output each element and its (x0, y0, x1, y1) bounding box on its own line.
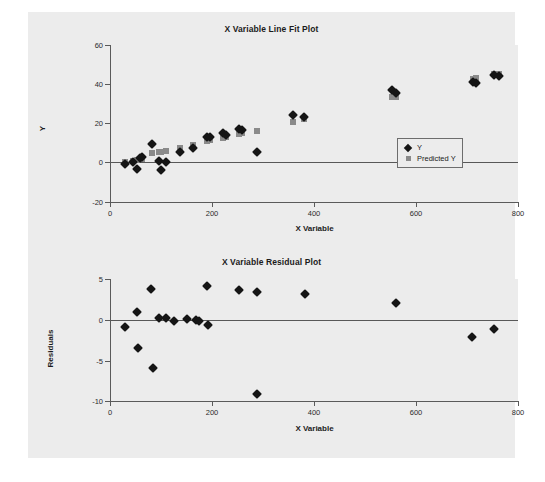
residual-point (182, 314, 192, 324)
residual-x-tick-label: 400 (299, 408, 329, 417)
residual-point (132, 307, 142, 317)
line-fit-plot: X Variable Line Fit Plot Y (28, 12, 515, 244)
residual-point (120, 322, 130, 332)
residual-x-tick-label: 0 (95, 408, 125, 417)
observed-point (156, 165, 166, 175)
residual-x-tick (212, 401, 213, 406)
line-fit-x-tick-label: 600 (401, 209, 431, 218)
line-fit-x-tick-label: 200 (197, 209, 227, 218)
observed-point (252, 147, 262, 157)
line-fit-y-tick-label: -20 (78, 198, 103, 207)
line-fit-y-axis (110, 45, 111, 203)
residual-plot: X Variable Residual Plot Residuals (28, 244, 515, 458)
residual-point (467, 332, 477, 342)
line-fit-y-tick-label: 60 (78, 41, 103, 50)
residual-x-tick-label: 800 (503, 408, 533, 417)
legend-item-y[interactable]: Y (402, 142, 456, 153)
predicted-point (163, 148, 169, 154)
residual-point (234, 285, 244, 295)
chart-panel: X Variable Line Fit Plot Y (28, 12, 515, 458)
residual-point (133, 343, 143, 353)
residual-y-tick (105, 279, 110, 280)
line-fit-x-tick (110, 202, 111, 207)
line-fit-x-axis-title: X Variable (110, 224, 519, 233)
observed-point (161, 157, 171, 167)
chart-screenshot: X Variable Line Fit Plot Y (0, 0, 545, 482)
line-fit-y-tick-label: 20 (78, 119, 103, 128)
diamond-marker-icon (402, 145, 414, 151)
predicted-point (149, 150, 155, 156)
residual-x-axis-title: X Variable (110, 424, 519, 433)
residual-point (146, 284, 156, 294)
line-fit-x-tick (518, 202, 519, 207)
observed-point (147, 139, 157, 149)
line-fit-plot-title: X Variable Line Fit Plot (28, 24, 515, 34)
residual-point (148, 363, 158, 373)
residual-x-tick-label: 200 (197, 408, 227, 417)
residual-point (300, 289, 310, 299)
legend-label: Predicted Y (417, 154, 456, 163)
line-fit-y-tick (105, 45, 110, 46)
residual-x-tick (518, 401, 519, 406)
residual-x-tick (314, 401, 315, 406)
square-marker-icon (402, 156, 414, 161)
line-fit-y-tick-label: 40 (78, 80, 103, 89)
residual-point (203, 320, 213, 330)
residual-x-tick-label: 600 (401, 408, 431, 417)
line-fit-x-tick (212, 202, 213, 207)
residual-y-tick-label: -5 (80, 357, 103, 366)
predicted-point (254, 128, 260, 134)
line-fit-y-axis-title: Y (38, 119, 47, 139)
legend-item-predicted-y[interactable]: Predicted Y (402, 153, 456, 164)
residual-y-tick-label: 5 (80, 275, 103, 284)
residual-y-tick-label: 0 (80, 316, 103, 325)
residual-y-axis (110, 279, 111, 402)
line-fit-y-tick-label: 0 (78, 158, 103, 167)
line-fit-x-tick-label: 800 (503, 209, 533, 218)
line-fit-y-tick (105, 84, 110, 85)
line-fit-x-tick (416, 202, 417, 207)
residual-x-tick (110, 401, 111, 406)
line-fit-y-tick (105, 123, 110, 124)
residual-plot-title: X Variable Residual Plot (28, 257, 515, 267)
residual-plot-area (110, 279, 518, 401)
line-fit-x-tick-label: 0 (95, 209, 125, 218)
line-fit-y-tick (105, 162, 110, 163)
line-fit-plot-area (110, 45, 518, 202)
residual-point (489, 324, 499, 334)
residual-x-tick (416, 401, 417, 406)
line-fit-x-tick (314, 202, 315, 207)
residual-y-tick (105, 320, 110, 321)
residual-point (252, 389, 262, 399)
residual-point (391, 298, 401, 308)
line-fit-legend[interactable]: Y Predicted Y (397, 138, 463, 168)
residual-y-tick-label: -10 (80, 397, 103, 406)
residual-y-tick (105, 361, 110, 362)
residual-point (202, 281, 212, 291)
observed-point (175, 147, 185, 157)
legend-label: Y (417, 143, 422, 152)
residual-y-axis-title: Residuals (46, 324, 55, 374)
residual-point (252, 287, 262, 297)
line-fit-x-tick-label: 400 (299, 209, 329, 218)
